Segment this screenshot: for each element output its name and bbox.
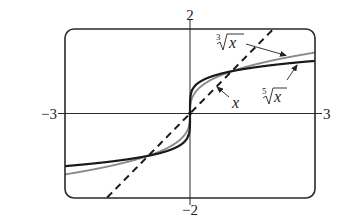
identity-annotation: x xyxy=(217,87,239,111)
fifth-root-arrow xyxy=(287,65,297,80)
x-min-label: −3 xyxy=(41,106,57,122)
root-functions-chart: 2 −2 −3 3 3 x 5 x x xyxy=(0,0,350,218)
identity-label: x xyxy=(231,94,239,111)
fifth-root-index: 5 xyxy=(262,86,267,96)
x-max-label: 3 xyxy=(323,106,331,122)
y-min-label: −2 xyxy=(182,202,198,218)
fifth-root-annotation: 5 x xyxy=(262,65,297,105)
fifth-root-radicand: x xyxy=(273,88,281,105)
cube-root-index: 3 xyxy=(216,32,221,42)
identity-arrow xyxy=(217,87,229,97)
y-max-label: 2 xyxy=(186,7,194,23)
cube-root-radicand: x xyxy=(228,34,236,51)
origin-point xyxy=(188,112,192,116)
